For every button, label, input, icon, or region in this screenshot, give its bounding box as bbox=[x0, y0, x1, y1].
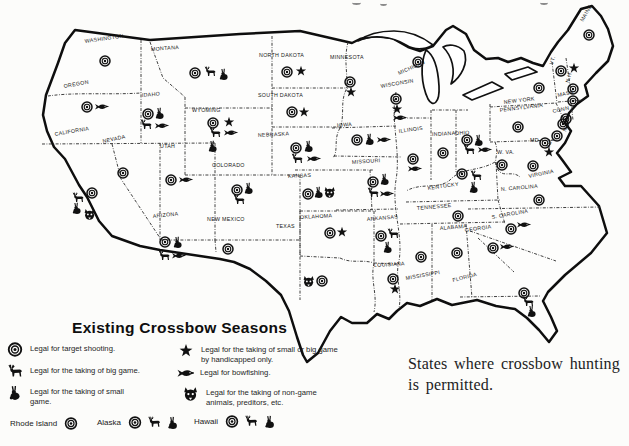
scan-artifact bbox=[380, 1, 387, 6]
scanned-map-page: WASHINGTONOREGONCALIFORNIANEVADAIDAHOMON… bbox=[0, 0, 629, 446]
small-game-icon bbox=[73, 203, 81, 214]
state-label: KANSAS bbox=[288, 172, 312, 179]
state-label: MINNESOTA bbox=[330, 54, 364, 60]
state-label: UTAH bbox=[160, 143, 175, 149]
state-label: NEW MEXICO bbox=[207, 216, 245, 222]
state-label: SOUTH DAKOTA bbox=[258, 92, 303, 98]
state-label: COLORADO bbox=[212, 162, 245, 168]
scan-artifact bbox=[540, 0, 548, 5]
predator-icon bbox=[85, 209, 95, 220]
state-label: INDIANA bbox=[432, 130, 456, 137]
state-label: TEXAS bbox=[276, 223, 295, 229]
state-label: MD. bbox=[530, 137, 541, 143]
caption-line-2: is permitted. bbox=[408, 374, 623, 395]
state-label: WYOMING bbox=[192, 107, 221, 113]
state-label: W. VA. bbox=[497, 149, 515, 155]
big-game-icon bbox=[73, 193, 83, 202]
caption-line-1: States where crossbow hunting bbox=[408, 353, 623, 374]
state-label: NORTH DAKOTA bbox=[259, 52, 304, 58]
map-caption: States where crossbow hunting is permitt… bbox=[408, 353, 623, 395]
state-label: IOWA bbox=[337, 121, 353, 128]
scan-artifact bbox=[352, 0, 361, 5]
